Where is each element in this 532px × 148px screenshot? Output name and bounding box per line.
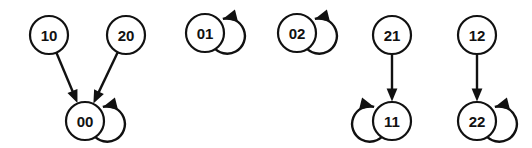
node-label: 00 xyxy=(77,113,94,130)
edges-layer xyxy=(57,53,483,104)
node-12[interactable]: 12 xyxy=(458,16,496,54)
edge-line xyxy=(57,53,74,94)
node-21[interactable]: 21 xyxy=(373,16,411,54)
edge-arrowhead xyxy=(387,89,398,102)
nodes-layer: 102000010221111222 xyxy=(30,14,496,140)
node-label: 10 xyxy=(41,27,58,44)
node-00[interactable]: 00 xyxy=(66,102,104,140)
node-11[interactable]: 11 xyxy=(373,102,411,140)
edge-10-to-00 xyxy=(57,53,78,103)
node-20[interactable]: 20 xyxy=(107,16,145,54)
node-10[interactable]: 10 xyxy=(30,16,68,54)
node-label: 01 xyxy=(197,25,214,42)
node-label: 22 xyxy=(469,113,486,130)
node-02[interactable]: 02 xyxy=(278,14,316,52)
edge-line xyxy=(98,53,118,95)
edge-12-to-22 xyxy=(472,55,483,102)
node-label: 20 xyxy=(118,27,135,44)
node-01[interactable]: 01 xyxy=(186,14,224,52)
edge-21-to-11 xyxy=(387,55,398,102)
edge-arrowhead xyxy=(67,89,77,103)
node-label: 21 xyxy=(384,27,401,44)
node-label: 12 xyxy=(469,27,486,44)
edge-arrowhead xyxy=(472,89,483,102)
state-transition-graph: 102000010221111222 xyxy=(0,0,532,148)
node-22[interactable]: 22 xyxy=(458,102,496,140)
node-label: 11 xyxy=(384,113,400,130)
edge-20-to-00 xyxy=(93,53,117,104)
node-label: 02 xyxy=(289,25,306,42)
diagram-canvas: 102000010221111222 xyxy=(0,0,532,148)
